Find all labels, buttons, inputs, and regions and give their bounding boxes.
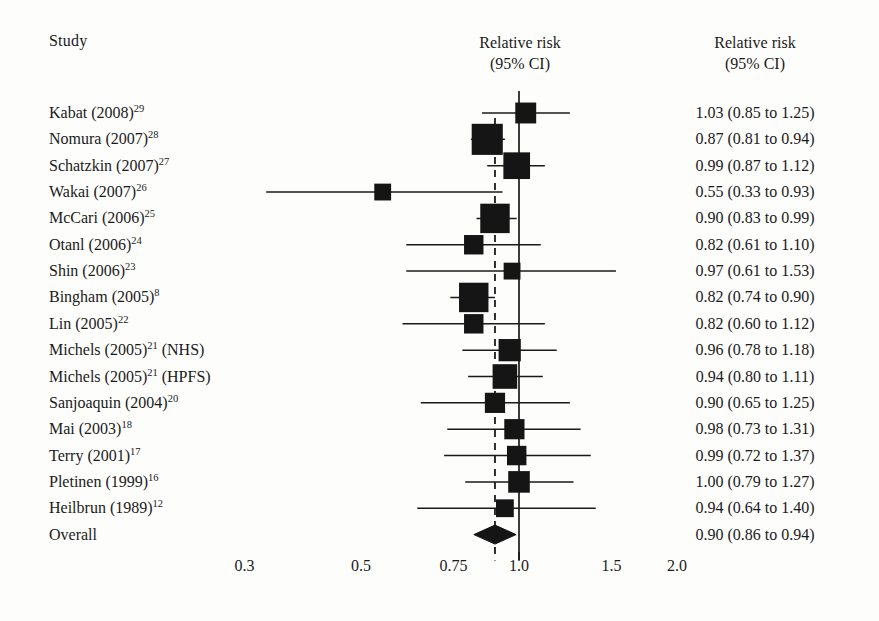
result-value: 0.94 (0.80 to 1.11) — [640, 369, 870, 385]
result-value: 0.90 (0.86 to 0.94) — [640, 527, 870, 543]
study-name: Michels (2005) — [49, 368, 147, 385]
axis-tick-label: 2.0 — [667, 558, 687, 574]
study-row-marker — [468, 364, 543, 389]
result-value: 0.82 (0.60 to 1.12) — [640, 316, 870, 332]
study-row-marker — [465, 471, 573, 493]
study-reference-number: 16 — [148, 472, 159, 483]
axis-tick-label: 0.3 — [234, 558, 254, 574]
study-row-marker — [417, 499, 595, 517]
study-row-marker — [421, 393, 570, 413]
result-value: 0.82 (0.61 to 1.10) — [640, 237, 870, 253]
study-label: Shin (2006)23 — [49, 263, 136, 279]
study-name: Otanl (2006) — [49, 236, 131, 253]
point-estimate-square — [496, 499, 514, 517]
summary-row-marker — [474, 525, 516, 544]
point-estimate-square — [464, 314, 483, 333]
study-name: Shin (2006) — [49, 262, 125, 279]
study-row-marker — [266, 184, 502, 201]
study-label: Kabat (2008)29 — [49, 105, 144, 121]
study-name: Schatzkin (2007) — [49, 157, 159, 174]
result-value: 0.99 (0.72 to 1.37) — [640, 448, 870, 464]
result-value: 0.98 (0.73 to 1.31) — [640, 421, 870, 437]
header-value-column-line2: (95% CI) — [640, 53, 870, 74]
point-estimate-square — [374, 184, 391, 201]
study-row-marker — [477, 204, 517, 233]
study-name: Pletinen (1999) — [49, 473, 148, 490]
result-value: 1.00 (0.79 to 1.27) — [640, 474, 870, 490]
study-name: Overall — [49, 526, 97, 543]
study-cohort-suffix: (NHS) — [158, 341, 205, 358]
study-label: Nomura (2007)28 — [49, 131, 159, 147]
point-estimate-square — [480, 204, 509, 233]
study-name: Lin (2005) — [49, 315, 118, 332]
point-estimate-square — [504, 263, 521, 280]
header-plot-title: Relative risk (95% CI) — [400, 32, 640, 74]
study-reference-number: 29 — [134, 103, 145, 114]
summary-diamond — [474, 525, 516, 544]
study-label: Bingham (2005)8 — [49, 289, 160, 305]
axis-tick-label: 0.5 — [351, 558, 371, 574]
study-reference-number: 21 — [147, 366, 158, 377]
study-name: Kabat (2008) — [49, 104, 134, 121]
study-row-marker — [482, 103, 570, 124]
study-label: Sanjoaquin (2004)20 — [49, 395, 178, 411]
study-label: Terry (2001)17 — [49, 448, 141, 464]
study-name: Heilbrun (1989) — [49, 499, 153, 516]
study-row-marker — [447, 419, 580, 439]
study-name: Bingham (2005) — [49, 288, 154, 305]
study-label: Pletinen (1999)16 — [49, 474, 159, 490]
result-value: 0.82 (0.74 to 0.90) — [640, 289, 870, 305]
point-estimate-square — [504, 419, 524, 439]
header-plot-title-line1: Relative risk — [400, 32, 640, 53]
study-reference-number: 20 — [168, 393, 179, 404]
axis-tick-label: 1.0 — [509, 558, 529, 574]
axis-tick-label: 0.75 — [439, 558, 467, 574]
study-reference-number: 18 — [121, 419, 132, 430]
study-name: Nomura (2007) — [49, 130, 148, 147]
result-value: 0.90 (0.65 to 1.25) — [640, 395, 870, 411]
point-estimate-square — [459, 283, 488, 312]
study-row-marker — [450, 283, 495, 312]
study-reference-number: 28 — [148, 129, 159, 140]
study-label: McCari (2006)25 — [49, 210, 155, 226]
study-name: Mai (2003) — [49, 420, 121, 437]
study-row-marker — [471, 124, 505, 155]
result-value: 0.97 (0.61 to 1.53) — [640, 263, 870, 279]
study-label: Michels (2005)21 (NHS) — [49, 342, 204, 358]
result-value: 1.03 (0.85 to 1.25) — [640, 105, 870, 121]
study-name: Wakai (2007) — [49, 183, 136, 200]
point-estimate-square — [472, 124, 503, 155]
study-name: McCari (2006) — [49, 209, 145, 226]
study-reference-number: 23 — [125, 261, 136, 272]
study-reference-number: 21 — [147, 340, 158, 351]
study-reference-number: 17 — [130, 445, 141, 456]
study-reference-number: 24 — [131, 234, 142, 245]
study-reference-number: 26 — [136, 182, 147, 193]
point-estimate-square — [493, 364, 518, 389]
study-name: Sanjoaquin (2004) — [49, 394, 168, 411]
study-label: Mai (2003)18 — [49, 421, 132, 437]
study-label: Lin (2005)22 — [49, 316, 128, 332]
result-value: 0.87 (0.81 to 0.94) — [640, 131, 870, 147]
result-value: 0.94 (0.64 to 1.40) — [640, 500, 870, 516]
study-reference-number: 27 — [159, 155, 170, 166]
point-estimate-square — [499, 339, 521, 361]
study-row-marker — [487, 152, 545, 179]
header-value-column: Relative risk (95% CI) — [640, 32, 870, 74]
study-label: Heilbrun (1989)12 — [49, 500, 163, 516]
result-value: 0.99 (0.87 to 1.12) — [640, 158, 870, 174]
study-reference-number: 12 — [153, 498, 164, 509]
point-estimate-square — [464, 235, 483, 254]
header-study-column: Study — [49, 32, 87, 50]
study-row-marker — [406, 235, 540, 254]
result-value: 0.90 (0.83 to 0.99) — [640, 210, 870, 226]
study-row-marker — [444, 446, 591, 465]
study-label: Otanl (2006)24 — [49, 237, 142, 253]
point-estimate-square — [507, 446, 526, 465]
study-reference-number: 22 — [118, 313, 129, 324]
study-label: Overall — [49, 527, 97, 543]
study-row-marker — [462, 339, 556, 361]
point-estimate-square — [515, 103, 536, 124]
study-name: Terry (2001) — [49, 447, 130, 464]
study-name: Michels (2005) — [49, 341, 147, 358]
